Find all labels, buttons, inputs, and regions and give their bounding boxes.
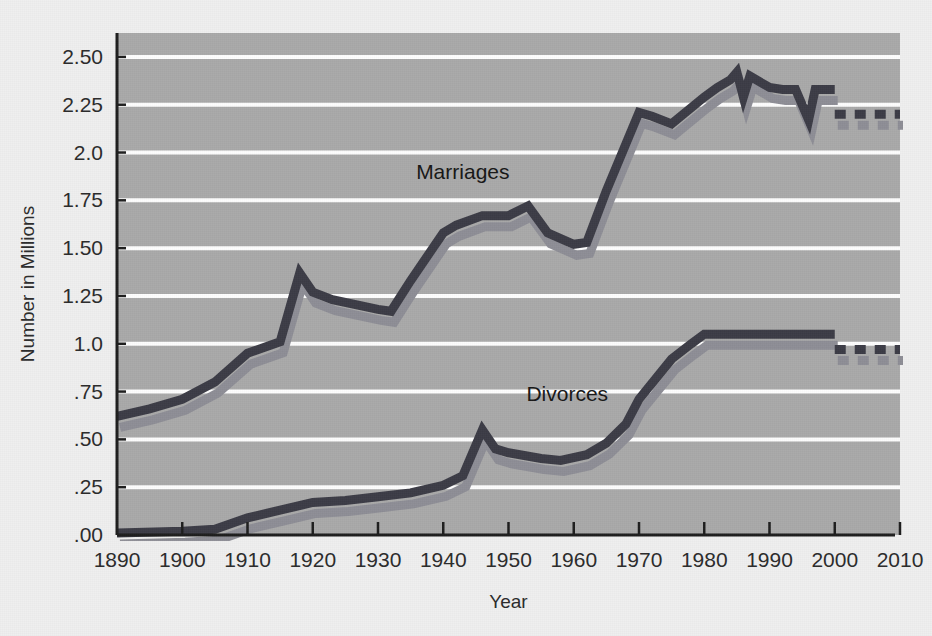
x-tick-label: 1920 [289, 548, 336, 571]
y-tick-label: 1.75 [62, 188, 103, 211]
line-chart: .00.25.50.751.01.251.501.752.02.252.50 1… [0, 0, 932, 636]
x-tick-label: 1980 [681, 548, 728, 571]
x-tick-label: 1940 [420, 548, 467, 571]
y-tick-label: 1.50 [62, 236, 103, 259]
series-label-marriages: Marriages [416, 160, 509, 183]
x-tick-label: 1970 [616, 548, 663, 571]
y-tick-label: 2.0 [74, 141, 103, 164]
x-tick-label: 1900 [159, 548, 206, 571]
x-axis-title: Year [489, 591, 528, 612]
y-tick-label: 2.25 [62, 93, 103, 116]
x-tick-label: 2010 [877, 548, 924, 571]
x-tick-labels: 1890190019101920193019401950196019701980… [94, 548, 924, 571]
y-tick-label: 1.25 [62, 284, 103, 307]
x-tick-label: 1960 [550, 548, 597, 571]
y-tick-label: .50 [74, 427, 103, 450]
series-label-divorces: Divorces [526, 382, 608, 405]
x-tick-label: 1930 [355, 548, 402, 571]
x-tick-label: 1890 [94, 548, 141, 571]
x-tick-label: 1950 [485, 548, 532, 571]
y-tick-labels: .00.25.50.751.01.251.501.752.02.252.50 [62, 45, 103, 546]
y-tick-label: 1.0 [74, 332, 103, 355]
y-tick-label: .25 [74, 475, 103, 498]
y-axis-title: Number in Millions [17, 206, 38, 362]
x-tick-label: 1990 [746, 548, 793, 571]
chart-figure: .00.25.50.751.01.251.501.752.02.252.50 1… [0, 0, 932, 636]
y-tick-label: .75 [74, 380, 103, 403]
x-tick-label: 1910 [224, 548, 271, 571]
y-tick-label: 2.50 [62, 45, 103, 68]
y-tick-label: .00 [74, 523, 103, 546]
x-tick-label: 2000 [811, 548, 858, 571]
